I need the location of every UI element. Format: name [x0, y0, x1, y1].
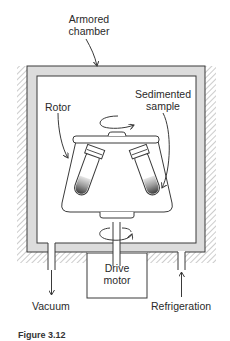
label-refrigeration: Refrigeration: [151, 300, 211, 312]
label-armored-line1: Armored: [66, 13, 112, 25]
label-drive-line2: motor: [87, 274, 147, 286]
label-sedimented-sample: Sedimented sample: [133, 88, 193, 112]
figure-caption: Figure 3.12: [18, 329, 66, 341]
refrigeration-pipe: [178, 251, 185, 297]
label-vacuum: Vacuum: [32, 300, 70, 312]
vacuum-pipe: [48, 242, 55, 295]
label-drive-line1: Drive: [87, 262, 147, 274]
label-sample-line1: Sedimented: [133, 88, 193, 100]
drive-shaft: [113, 222, 120, 267]
label-armored-line2: chamber: [66, 25, 112, 37]
label-armored-chamber: Armored chamber: [66, 13, 112, 37]
armored-chamber-leader: [86, 39, 97, 66]
label-sample-line2: sample: [133, 100, 193, 112]
label-rotor: Rotor: [45, 101, 71, 113]
label-drive-motor: Drive motor: [87, 262, 147, 286]
